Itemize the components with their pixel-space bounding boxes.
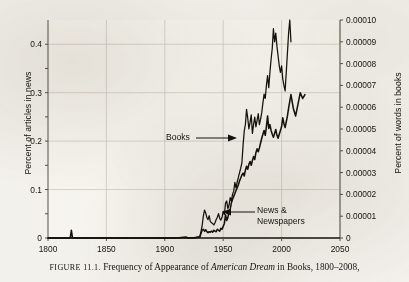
annotation-news-newspapers: News & Newspapers — [257, 205, 305, 226]
y-right-tick-0.00002: 0.00002 — [346, 189, 392, 199]
y-right-tick-0: 0 — [346, 233, 392, 243]
y-left-tick-0.4: 0.4 — [8, 39, 42, 49]
y-right-tick-0.00003: 0.00003 — [346, 168, 392, 178]
y-right-tick-0.00005: 0.00005 — [346, 124, 392, 134]
caption-text-part-one: Frequency of Appearance of — [101, 262, 211, 272]
y-left-tick-0.1: 0.1 — [8, 185, 42, 195]
y-left-tick-0.2: 0.2 — [8, 136, 42, 146]
caption-work-title: American Dream — [211, 262, 275, 272]
y-right-tick-0.00008: 0.00008 — [346, 59, 392, 69]
annotation-news-line2: Newspapers — [257, 216, 305, 227]
annotation-books: Books — [166, 132, 190, 143]
x-tick-1850: 1850 — [86, 244, 126, 254]
y-right-tick-0.00001: 0.00001 — [346, 211, 392, 221]
y-right-tick-0.00010: 0.00010 — [346, 15, 392, 25]
caption-text-part-two: in Books, 1800–2008, — [275, 262, 359, 272]
y-left-tick-0.3: 0.3 — [8, 88, 42, 98]
annotation-news-line1: News & — [257, 205, 305, 216]
x-tick-1950: 1950 — [203, 244, 243, 254]
figure-container: Percent of articles in news Percent of w… — [0, 0, 409, 282]
y-left-tick-0: 0 — [8, 233, 42, 243]
y-right-tick-0.00006: 0.00006 — [346, 102, 392, 112]
figure-caption: FIGURE 11.1. Frequency of Appearance of … — [0, 262, 409, 272]
y-right-tick-0.00009: 0.00009 — [346, 37, 392, 47]
y-right-tick-0.00007: 0.00007 — [346, 80, 392, 90]
caption-figure-number: FIGURE 11.1. — [50, 263, 101, 272]
x-tick-1900: 1900 — [145, 244, 185, 254]
y-right-tick-0.00004: 0.00004 — [346, 146, 392, 156]
x-tick-2050: 2050 — [320, 244, 360, 254]
x-tick-2000: 2000 — [262, 244, 302, 254]
x-tick-1800: 1800 — [28, 244, 68, 254]
